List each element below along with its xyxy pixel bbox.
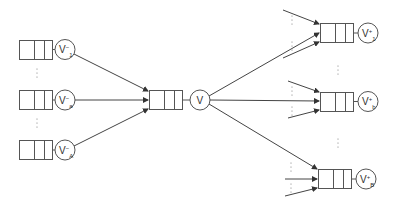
edge-in-vplus-b-top bbox=[288, 81, 319, 92]
queue-v bbox=[150, 91, 191, 110]
edge-in-vplus-1-top bbox=[283, 10, 319, 24]
edge-in-vplus-b-bottom bbox=[288, 110, 319, 118]
label-v: V bbox=[197, 95, 204, 106]
edge-v-to-vplus-b bbox=[210, 100, 319, 101]
queue-vminus-1 bbox=[20, 41, 56, 60]
queueing-network-diagram: V−1 V−a V−A V V+1 V+b V+B bbox=[0, 0, 398, 206]
edge-vminus-1-to-v bbox=[74, 54, 148, 91]
queue-vplus-b bbox=[321, 93, 359, 112]
ellipsis-dots bbox=[36, 15, 338, 192]
queue-vminus-A bbox=[20, 141, 56, 160]
edge-v-to-vplus-B bbox=[209, 104, 317, 169]
edge-vminus-A-to-v bbox=[74, 109, 148, 146]
queue-vminus-a bbox=[20, 91, 56, 110]
queue-vplus-B bbox=[319, 170, 357, 189]
queue-vplus-1 bbox=[321, 24, 359, 43]
edge-in-vplus-B-bottom bbox=[285, 188, 317, 196]
